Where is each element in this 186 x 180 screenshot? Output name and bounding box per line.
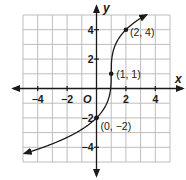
graph: −4−22442−2−4 (2, 4)(1, 1)(0, −2) x y O	[0, 0, 186, 180]
data-point	[94, 116, 99, 121]
x-tick-label: −4	[32, 93, 44, 105]
y-tick-label: 4	[88, 24, 94, 36]
data-point-label: (1, 1)	[116, 68, 141, 80]
y-tick-label: −4	[82, 141, 94, 153]
axes	[13, 6, 183, 176]
points-layer: (2, 4)(1, 1)(0, −2)	[94, 26, 154, 132]
data-point	[109, 72, 114, 77]
x-axis-label: x	[174, 72, 183, 86]
y-axis-label: y	[102, 1, 111, 15]
data-point	[124, 27, 129, 32]
x-tick-label: 4	[152, 93, 158, 105]
data-point-label: (0, −2)	[101, 120, 132, 132]
x-tick-label: 2	[123, 93, 129, 105]
origin-label: O	[83, 93, 92, 105]
data-point-label: (2, 4)	[130, 26, 155, 38]
x-tick-label: −2	[61, 93, 73, 105]
y-tick-label: 2	[88, 53, 94, 65]
